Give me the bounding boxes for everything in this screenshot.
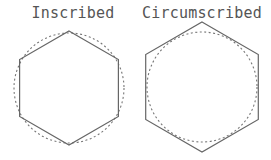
inscribed-hexagon — [20, 31, 119, 145]
circumscribed-figure: Circumscribed — [142, 4, 262, 152]
inscribed-label: Inscribed — [31, 4, 114, 22]
circumscribed-hexagon — [146, 22, 259, 152]
inscribed-figure: Inscribed — [14, 4, 124, 145]
circumscribed-label: Circumscribed — [142, 4, 262, 22]
polygon-diagram: Inscribed Circumscribed — [0, 0, 271, 160]
inscribed-circle — [14, 33, 124, 143]
circumscribed-circle — [147, 32, 257, 142]
